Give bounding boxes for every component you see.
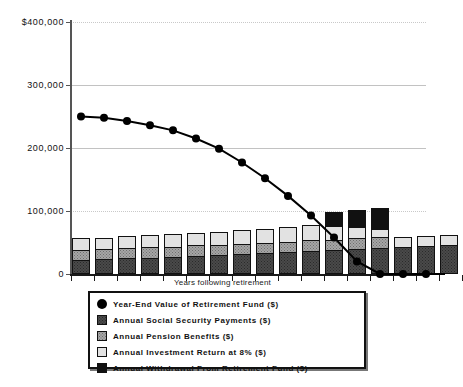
bar-column <box>348 0 366 274</box>
bar-segment-ss <box>187 256 205 274</box>
bar-segment-invest <box>279 227 297 243</box>
bar-column <box>233 0 251 274</box>
bar-segment-ss <box>371 248 389 274</box>
bar-segment-ss <box>164 257 182 274</box>
bar-column <box>325 0 343 274</box>
y-axis-label: 200,000 <box>0 143 64 153</box>
legend-swatch-withdrawal <box>97 363 107 373</box>
bar-column <box>279 0 297 274</box>
bar-segment-invest <box>325 226 343 241</box>
bar-segment-ss <box>233 254 251 274</box>
bar-column <box>417 0 435 274</box>
bar-segment-ss <box>210 255 228 274</box>
y-axis-label: 300,000 <box>0 80 64 90</box>
y-axis-label-wrap: 300,000 <box>0 80 64 90</box>
bar-segment-ss <box>141 258 159 274</box>
bar-segment-invest <box>210 232 228 246</box>
bar-segment-ss <box>348 249 366 274</box>
bar-column <box>95 0 113 274</box>
legend-item: Annual Pension Benefits ($) <box>97 329 364 343</box>
bar-segment-invest <box>233 230 251 244</box>
x-axis-title: Years following retirement <box>0 278 445 287</box>
y-axis-label: $400,000 <box>0 17 64 27</box>
legend-item: Annual Withdrawal From Retirement Fund (… <box>97 361 364 375</box>
bar-column <box>440 0 458 274</box>
legend-item: Annual Social Security Payments ($) <box>97 313 364 327</box>
bar-segment-ss <box>302 251 320 274</box>
chart-legend: Year-End Value of Retirement Fund ($)Ann… <box>88 291 366 369</box>
bar-segment-ss <box>279 252 297 274</box>
legend-label: Annual Pension Benefits ($) <box>113 332 234 341</box>
y-axis-label-wrap: 200,000 <box>0 143 64 153</box>
y-axis-label-wrap: 100,000 <box>0 206 64 216</box>
bar-column <box>256 0 274 274</box>
bar-segment-ss <box>118 258 136 274</box>
bar-segment-ss <box>95 259 113 274</box>
bar-column <box>141 0 159 274</box>
legend-swatch-social-security <box>97 315 107 325</box>
y-axis-label-wrap: $400,000 <box>0 17 64 27</box>
bar-column <box>187 0 205 274</box>
bar-segment-withdraw <box>371 208 389 231</box>
legend-item: Year-End Value of Retirement Fund ($) <box>97 297 364 311</box>
bar-segment-withdraw <box>325 212 343 227</box>
legend-marker-circle-icon <box>97 299 107 309</box>
bar-segment-ss <box>417 246 435 274</box>
legend-swatch-pension <box>97 331 107 341</box>
legend-label: Year-End Value of Retirement Fund ($) <box>113 300 279 309</box>
bar-segment-ss <box>256 253 274 274</box>
bar-segment-invest <box>302 225 320 241</box>
bar-column <box>118 0 136 274</box>
legend-label: Annual Withdrawal From Retirement Fund (… <box>113 364 308 373</box>
bar-segment-ss <box>440 245 458 274</box>
bar-column <box>210 0 228 274</box>
bar-column <box>72 0 90 274</box>
legend-swatch-investment <box>97 347 107 357</box>
y-axis-label: 100,000 <box>0 206 64 216</box>
bar-segment-ss <box>394 247 412 274</box>
bar-segment-invest <box>256 229 274 244</box>
bar-segment-withdraw <box>348 210 366 228</box>
legend-item: Annual Investment Return at 8% ($) <box>97 345 364 359</box>
bar-column <box>302 0 320 274</box>
legend-label: Annual Investment Return at 8% ($) <box>113 348 266 357</box>
legend-label: Annual Social Security Payments ($) <box>113 316 271 325</box>
bar-column <box>164 0 182 274</box>
bar-segment-ss <box>325 250 343 274</box>
bar-column <box>394 0 412 274</box>
x-axis-line <box>70 274 427 276</box>
bar-column <box>371 0 389 274</box>
bar-segment-ss <box>72 260 90 274</box>
